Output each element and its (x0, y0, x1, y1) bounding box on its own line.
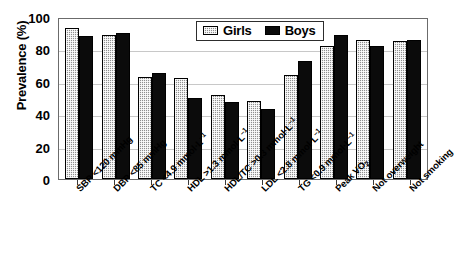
chart-legend: Girls Boys (196, 21, 324, 41)
y-axis-tick-0: 0 (0, 174, 50, 187)
legend-item-boys: Boys (265, 24, 316, 37)
y-axis-tick-20: 20 (0, 141, 50, 154)
y-axis-tick-80: 80 (0, 44, 50, 57)
bar-boys (370, 46, 384, 179)
y-axis-tick-100: 100 (0, 12, 50, 25)
y-axis-tick-labels: 020406080100 (0, 0, 56, 266)
legend-label-girls: Girls (223, 24, 252, 37)
legend-item-girls: Girls (203, 24, 252, 37)
x-axis-tick-labels: SBP <120 mmHgDBP <85 mmHgTC <4.9 mmol·L–… (58, 186, 432, 266)
legend-swatch-boys-icon (265, 26, 280, 35)
legend-swatch-girls-icon (203, 26, 218, 35)
bar-group (61, 19, 97, 179)
y-axis-tick-60: 60 (0, 76, 50, 89)
bar-group (352, 19, 388, 179)
y-axis-tick-40: 40 (0, 109, 50, 122)
legend-label-boys: Boys (285, 24, 316, 37)
bar-boys (152, 73, 166, 179)
bar-girls (65, 28, 79, 179)
bar-boys (79, 36, 93, 179)
bar-boys (298, 61, 312, 179)
